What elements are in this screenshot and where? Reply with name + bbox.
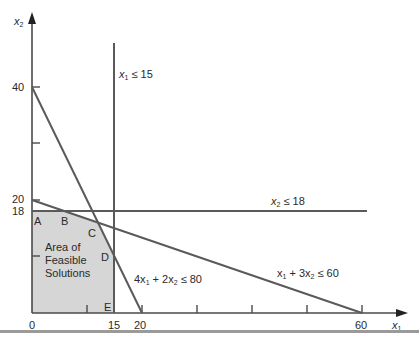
c-4x1-a: 4x: [134, 273, 146, 285]
y-tick-20: 20: [12, 194, 24, 205]
lp-chart: [0, 0, 419, 347]
point-B: B: [61, 216, 68, 227]
c-4x1-b: + 2x: [150, 273, 174, 285]
point-A: A: [34, 216, 41, 227]
x-ticks: [87, 305, 362, 313]
point-D: D: [101, 252, 109, 263]
c-4x1-c: ≤ 80: [178, 273, 202, 285]
c-x2-rest: ≤ 18: [280, 195, 304, 207]
y-axis-sub: 2: [20, 21, 24, 28]
c-x1-rest: ≤ 15: [128, 68, 152, 80]
label-x2-le-18: x2 ≤ 18: [271, 196, 305, 208]
feasible-line-2: Feasible: [45, 254, 90, 267]
point-E: E: [104, 302, 111, 313]
y-tick-18: 18: [12, 206, 24, 217]
bottom-rule: [0, 330, 419, 333]
y-axis-arrow-icon: [28, 12, 36, 24]
y-axis-label: x2: [14, 16, 23, 28]
label-4x1-2x2-le-80: 4x1 + 2x2 ≤ 80: [134, 274, 202, 286]
point-C: C: [88, 228, 96, 239]
label-x1-le-15: x1 ≤ 15: [119, 69, 153, 81]
c-x13x2-c: ≤ 60: [314, 267, 338, 279]
x-axis-arrow-icon: [396, 309, 408, 317]
feasible-region-label: Area of Feasible Solutions: [45, 241, 90, 280]
c-x13x2-b: + 3x: [286, 267, 310, 279]
feasible-line-1: Area of: [45, 241, 90, 254]
y-tick-40: 40: [12, 82, 24, 93]
feasible-line-3: Solutions: [45, 267, 90, 280]
label-x1-3x2-le-60: x1 + 3x2 ≤ 60: [277, 268, 339, 280]
